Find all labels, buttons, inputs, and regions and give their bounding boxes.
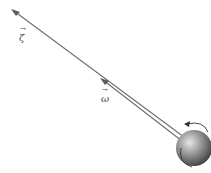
omega-symbol: ω <box>101 93 109 104</box>
vector-arrow-icon: → <box>102 87 108 94</box>
zeta-label: → ζ <box>19 33 24 43</box>
omega-label: → ω <box>101 94 109 104</box>
vector-arrow-icon: → <box>20 26 26 33</box>
spinning-sphere <box>176 130 211 166</box>
omega-vector <box>100 78 182 141</box>
zeta-symbol: ζ <box>19 32 24 43</box>
zeta-vector <box>11 9 184 137</box>
